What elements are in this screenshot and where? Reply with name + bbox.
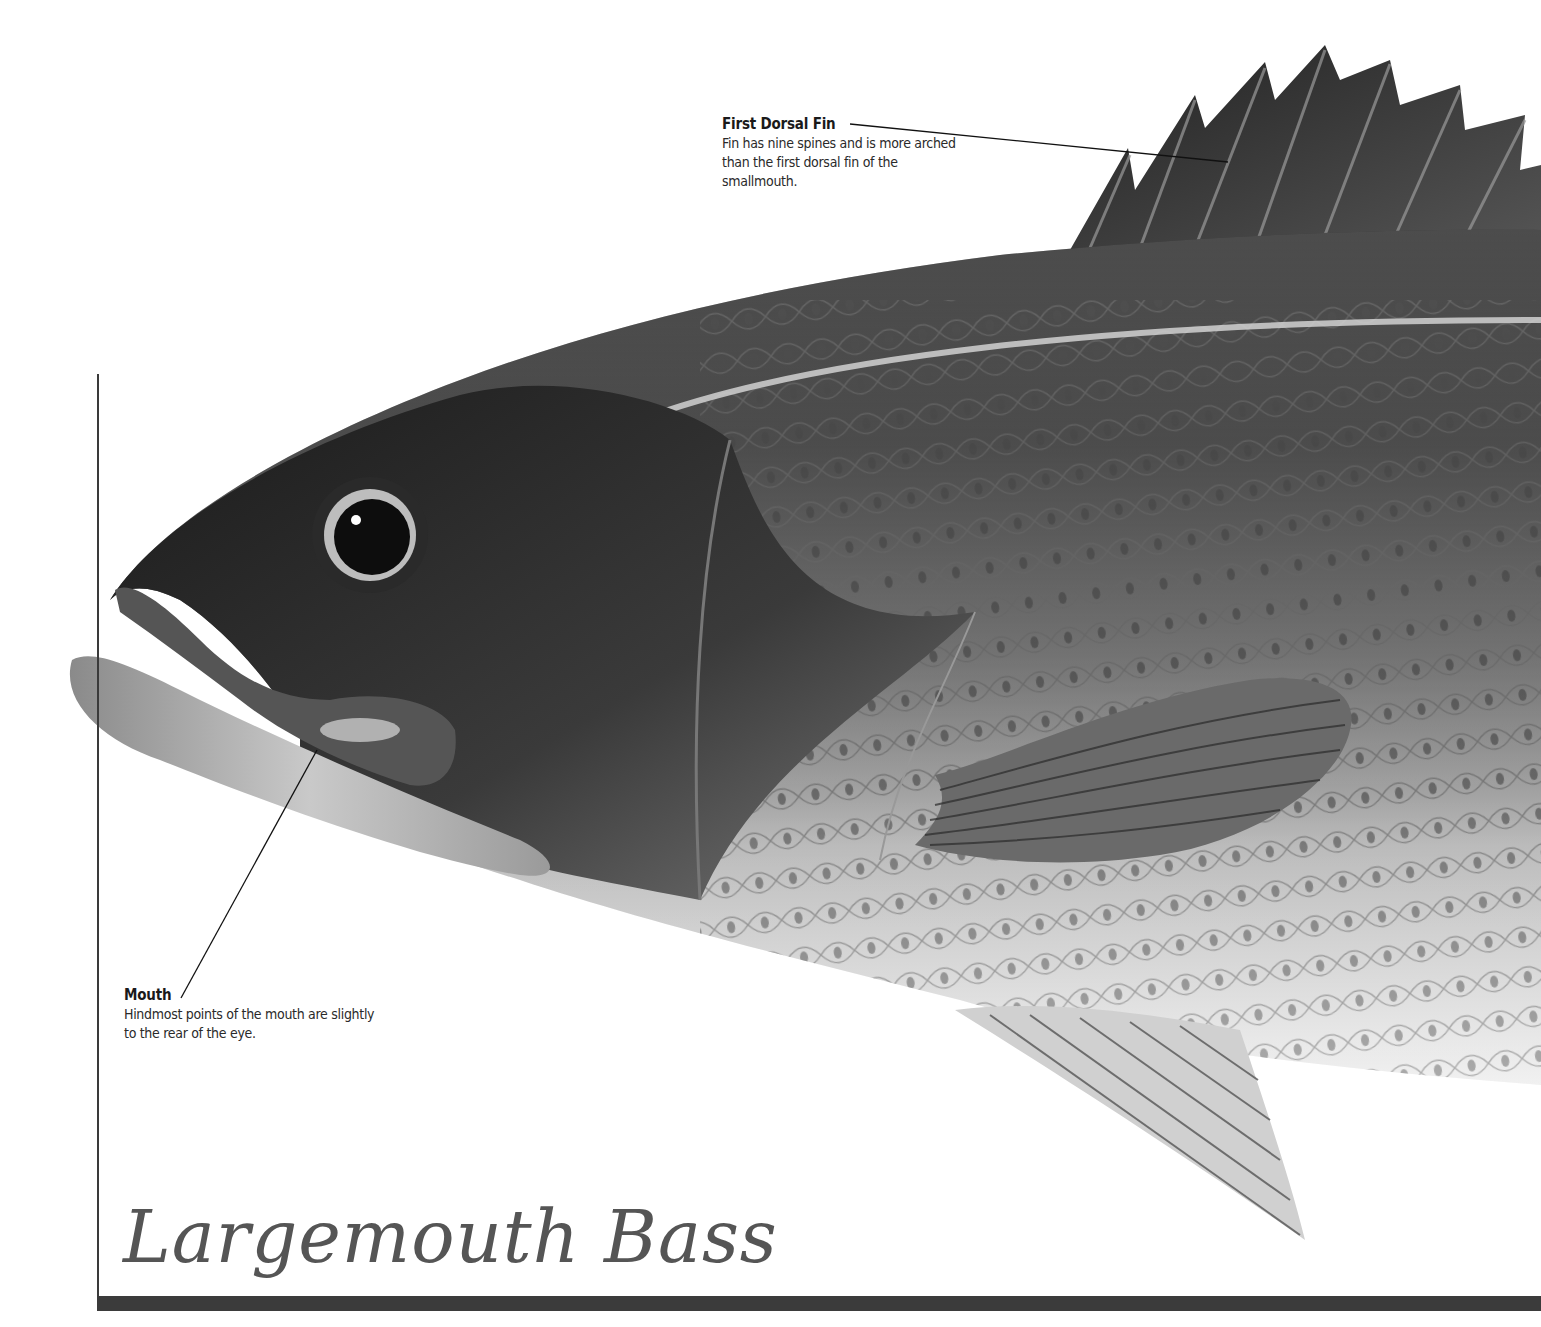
callout-mouth: Mouth Hindmost points of the mouth are s… bbox=[124, 985, 384, 1043]
callout-first-dorsal-fin: First Dorsal Fin Fin has nine spines and… bbox=[722, 114, 972, 191]
first-dorsal-fin-shape bbox=[1070, 45, 1541, 250]
callout-title: First Dorsal Fin bbox=[722, 114, 972, 134]
fish-diagram-page: First Dorsal Fin Fin has nine spines and… bbox=[0, 0, 1541, 1327]
species-title: Largemouth Bass bbox=[123, 1192, 778, 1282]
fish-illustration bbox=[0, 0, 1541, 1327]
fish-eye bbox=[312, 477, 428, 593]
callout-title: Mouth bbox=[124, 985, 384, 1005]
callout-description: Hindmost points of the mouth are slightl… bbox=[124, 1005, 384, 1043]
frame-bottom-bar bbox=[97, 1296, 1541, 1311]
frame-vertical-rule bbox=[97, 374, 99, 1309]
callout-description: Fin has nine spines and is more arched t… bbox=[722, 134, 972, 191]
